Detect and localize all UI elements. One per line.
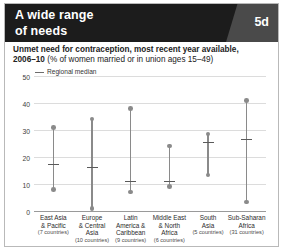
y-axis-tick-20: 20 [22,155,30,162]
y-axis-tick-40: 40 [22,101,30,108]
min-dot [167,184,172,189]
gridline-40: 40 [34,103,266,104]
median-tick [125,181,136,182]
median-tick [87,167,98,168]
figure-header: A wide range of needs 5d [5,4,278,42]
page-title: A wide range of needs [15,7,215,39]
x-axis-label-line: Sub-Saharan [224,214,270,222]
range-line [207,134,208,175]
median-tick [164,181,175,182]
chart-legend: Regional median [35,68,97,76]
gridline-0: 0 [34,211,266,212]
gridline-50: 50 [34,76,266,77]
max-dot [206,132,211,137]
y-axis-tick-10: 10 [22,182,30,189]
y-axis-tick-30: 30 [22,128,30,135]
x-axis-country-count: (31 countries) [224,229,270,237]
gridline-20: 20 [34,157,266,158]
range-line [53,127,54,189]
plot-area: 01020304050 [34,76,266,211]
legend-median-swatch [35,72,44,73]
max-dot [51,125,56,130]
figure-tag-wedge [226,4,278,42]
median-tick [241,139,252,140]
y-axis-tick-50: 50 [22,74,30,81]
title-line-2: of needs [15,23,215,39]
title-line-1: A wide range [15,7,215,23]
x-axis-label-line: Africa [224,222,270,230]
max-dot [90,117,95,122]
min-dot [128,190,133,195]
subtitle-year-range: 2006–10 [13,55,45,64]
min-dot [90,206,95,211]
min-dot [244,200,249,205]
subtitle-line-2-rest: (% of women married or in union ages 15–… [45,55,213,64]
x-axis-country-count: (6 countries) [146,237,192,245]
figure-panel: A wide range of needs 5d Unmet need for … [0,0,283,250]
median-tick [48,164,59,165]
chart-subtitle: Unmet need for contraception, most recen… [13,45,271,66]
subtitle-line-2: 2006–10 (% of women married or in union … [13,55,271,65]
legend-median-label: Regional median [47,68,97,76]
median-tick [203,142,214,143]
range-line [91,119,92,208]
max-dot [244,98,249,103]
subtitle-line-1: Unmet need for contraception, most recen… [13,45,271,55]
range-line [246,100,247,202]
gridline-30: 30 [34,130,266,131]
gridline-10: 10 [34,184,266,185]
min-dot [206,173,211,178]
max-dot [167,144,172,149]
max-dot [128,106,133,111]
x-axis-labels: East Asia& Pacific(7 countries)Europe& C… [34,214,266,248]
figure-tag-label: 5d [254,15,269,29]
x-axis-label-5: Sub-SaharanAfrica(31 countries) [224,214,270,237]
min-dot [51,187,56,192]
